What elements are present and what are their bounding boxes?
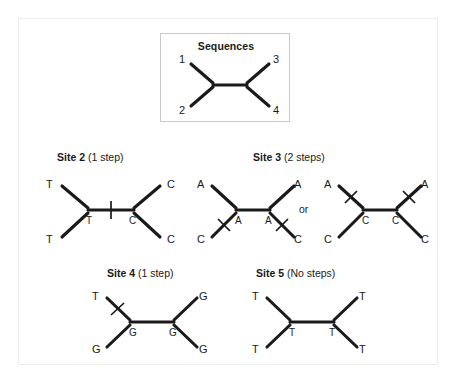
site-3-tree-b: A C A C C C — [317, 175, 432, 245]
site3b-tip-top-left: A — [324, 178, 332, 190]
site2-branch-bottom-right — [134, 213, 160, 237]
site3a-branch-top-left — [212, 186, 236, 208]
site-5-tree: T T T T T T — [246, 287, 376, 355]
site4-node-right: G — [169, 327, 177, 338]
figure-root: Sequences 1 2 3 4 Site 2 (1 step) T T C … — [0, 0, 458, 381]
site5-branch-top-right — [334, 298, 357, 320]
site4-branch-top-right — [174, 298, 197, 320]
site4-branch-bottom-left — [107, 325, 130, 347]
site3a-node-right: A — [265, 215, 272, 226]
site3a-tip-bottom-left: C — [197, 233, 205, 245]
seq-branch-bottom-right — [247, 87, 269, 106]
site-2-title-bold: Site 2 — [57, 151, 85, 163]
site4-tip-top-left: T — [92, 290, 99, 302]
site2-tip-bottom-left: T — [46, 233, 53, 245]
site2-branch-top-left — [62, 186, 88, 208]
seq-tip-3: 3 — [273, 53, 279, 65]
site-4-title-bold: Site 4 — [107, 267, 135, 279]
site5-node-left: T — [289, 327, 295, 338]
site5-tip-top-left: T — [252, 290, 259, 302]
site3b-tip-bottom-right: C — [421, 233, 429, 245]
site3a-branch-top-right — [270, 186, 294, 208]
site-5-title: Site 5 (No steps) — [256, 267, 335, 279]
site3a-tip-bottom-right: C — [294, 233, 302, 245]
site-3-title: Site 3 (2 steps) — [253, 151, 325, 163]
site5-tip-bottom-left: T — [252, 343, 259, 355]
site3a-node-left: A — [235, 215, 242, 226]
site2-node-right: C — [129, 215, 136, 226]
site3b-tip-bottom-left: C — [324, 233, 332, 245]
site5-node-right: T — [329, 327, 335, 338]
site3b-node-right: C — [392, 215, 399, 226]
site4-node-left: G — [129, 327, 137, 338]
site-3-tree-a: A C A C A A — [190, 175, 305, 245]
site-2-tree: T T C C T C — [36, 175, 186, 245]
site5-branch-bottom-left — [267, 325, 290, 347]
site5-branch-bottom-right — [334, 325, 357, 347]
site3b-node-left: C — [362, 215, 369, 226]
site3a-tip-top-left: A — [197, 178, 205, 190]
site3b-tip-top-right: A — [421, 178, 429, 190]
sequences-box: Sequences 1 2 3 4 — [160, 33, 290, 122]
site4-tip-top-right: G — [199, 290, 208, 302]
site-3-or-connector: or — [299, 203, 308, 215]
site4-branch-bottom-right — [174, 325, 197, 347]
site2-node-left: T — [86, 215, 92, 226]
site5-branch-top-left — [267, 298, 290, 320]
site3b-branch-bottom-left — [339, 213, 363, 237]
site2-tip-top-right: C — [167, 178, 175, 190]
site-4-tree: T G G G G G — [86, 287, 216, 355]
site2-branch-top-right — [134, 186, 160, 208]
seq-branch-top-left — [191, 64, 213, 83]
seq-branch-top-right — [247, 64, 269, 83]
site3b-branch-bottom-right — [397, 213, 421, 237]
site-2-title-rest: (1 step) — [88, 151, 124, 163]
site-5-title-rest: (No steps) — [287, 267, 335, 279]
sequences-tree: 1 2 3 4 — [161, 34, 291, 123]
site-4-title-rest: (1 step) — [138, 267, 174, 279]
seq-branch-bottom-left — [191, 87, 213, 106]
seq-tip-2: 2 — [179, 104, 185, 116]
site2-branch-bottom-left — [62, 213, 88, 237]
site2-tip-bottom-right: C — [167, 233, 175, 245]
site-4-title: Site 4 (1 step) — [107, 267, 174, 279]
site2-tip-top-left: T — [46, 178, 53, 190]
site-5-title-bold: Site 5 — [256, 267, 284, 279]
site5-tip-top-right: T — [359, 290, 366, 302]
seq-tip-4: 4 — [273, 104, 279, 116]
site3a-tip-top-right: A — [294, 178, 302, 190]
site4-tip-bottom-right: G — [199, 343, 208, 355]
site4-tip-bottom-left: G — [92, 343, 101, 355]
site-3-title-bold: Site 3 — [253, 151, 281, 163]
site-3-title-rest: (2 steps) — [284, 151, 325, 163]
seq-tip-1: 1 — [179, 53, 185, 65]
site5-tip-bottom-right: T — [359, 343, 366, 355]
site-2-title: Site 2 (1 step) — [57, 151, 124, 163]
